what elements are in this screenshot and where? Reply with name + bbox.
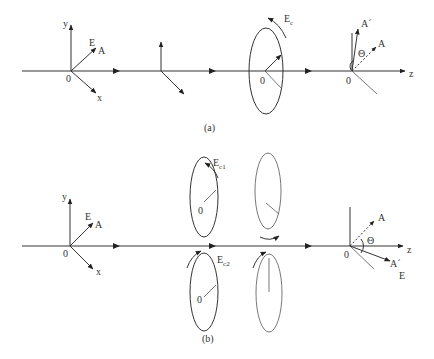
A-prime-vector-arrow	[350, 246, 390, 261]
ellipse-bottom-right	[253, 252, 282, 332]
right-frame-a: Θ A´ A 0 z	[346, 18, 414, 94]
x-axis-arrow	[71, 71, 96, 93]
field-E-label: E	[89, 37, 95, 48]
origin-label: 0	[197, 294, 202, 305]
diagonal-vector-arrow	[161, 71, 184, 94]
A-prime-label: A´	[390, 258, 401, 269]
diagonal-reference-line	[350, 246, 374, 269]
Ec2-label: Ec2	[217, 254, 230, 268]
right-frame-b: Θ A A´ E 0 z	[344, 207, 412, 281]
panel-a: y E A 0 x 0 Ec Θ A´ A	[22, 13, 414, 134]
theta-label: Θ	[358, 48, 365, 59]
polarization-ellipse	[255, 153, 281, 229]
polarization-ellipse	[190, 253, 218, 331]
E-label: E	[399, 270, 405, 281]
field-E-label: E	[85, 211, 91, 222]
left-frame-a: y E A 0 x	[63, 18, 106, 103]
middle-frame-a	[161, 42, 184, 94]
Ec-label: Ec	[284, 13, 293, 27]
field-vector-arrow	[70, 223, 93, 246]
axis-arrowhead-icon	[305, 243, 312, 249]
ellipse-top-right	[255, 153, 281, 239]
field-vector-line	[204, 285, 216, 297]
rotation-arrow-icon	[260, 236, 279, 239]
z-axis-label: z	[407, 244, 412, 255]
axis-arrowhead-icon	[113, 68, 120, 74]
ellipse-c2: 0 Ec2	[187, 251, 230, 331]
A-prime-label: A´	[361, 18, 372, 29]
axis-arrowhead-icon	[209, 68, 216, 74]
z-axis-label: z	[409, 68, 414, 79]
Ec1-label: Ec1	[213, 157, 226, 171]
caption-a: (a)	[204, 122, 215, 134]
field-vector-line	[204, 190, 216, 202]
left-frame-b: y E A 0 x	[62, 191, 103, 277]
origin-label: 0	[260, 75, 265, 86]
origin-label: 0	[198, 205, 203, 216]
origin-label: 0	[63, 248, 68, 259]
axis-arrowhead-icon	[305, 68, 312, 74]
ellipse-a: 0 Ec	[249, 13, 293, 114]
x-axis-arrow	[70, 246, 93, 269]
field-vector-arrow	[71, 48, 96, 71]
rotating-vector-arrow	[265, 55, 281, 71]
panel-b: y E A 0 x 0 Ec1 0 Ec2	[22, 153, 412, 345]
reference-line	[265, 71, 281, 88]
polarization-ellipse	[190, 157, 218, 237]
caption-b: (b)	[202, 333, 214, 345]
A-label: A	[378, 38, 386, 49]
x-axis-label: x	[97, 92, 102, 103]
axis-arrowhead-icon	[209, 243, 216, 249]
x-axis-label: x	[96, 266, 101, 277]
A-label: A	[378, 212, 386, 223]
theta-label: Θ	[367, 235, 374, 246]
diagonal-reference-line	[352, 71, 377, 94]
ellipse-c1: 0 Ec1	[190, 157, 226, 237]
y-axis-label: y	[62, 191, 67, 202]
field-A-label: A	[98, 45, 106, 56]
y-axis-label: y	[63, 18, 68, 29]
origin-label: 0	[344, 249, 349, 260]
field-A-label: A	[95, 219, 103, 230]
optics-diagram: y E A 0 x 0 Ec Θ A´ A	[0, 0, 434, 359]
origin-label: 0	[66, 73, 71, 84]
axis-arrowhead-icon	[113, 243, 120, 249]
field-vector-line	[266, 203, 279, 214]
origin-label: 0	[346, 75, 351, 86]
